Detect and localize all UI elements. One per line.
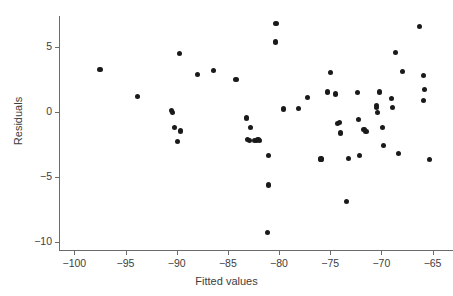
data-point <box>328 70 333 75</box>
x-tick-mark <box>74 251 75 255</box>
x-tick-mark <box>381 251 382 255</box>
x-tick-mark <box>126 251 127 255</box>
y-axis-title: Residuals <box>12 71 24 171</box>
x-tick-mark <box>330 251 331 255</box>
data-point <box>333 91 338 96</box>
x-axis-line <box>59 250 453 251</box>
data-point <box>178 128 183 133</box>
data-point <box>377 89 382 94</box>
data-point <box>273 21 278 26</box>
y-tick-label: 5 <box>10 40 52 52</box>
data-point <box>233 77 238 82</box>
x-tick-label: −100 <box>54 257 94 269</box>
x-tick-label: −70 <box>361 257 401 269</box>
data-point <box>318 156 323 161</box>
data-point <box>417 24 422 29</box>
data-point <box>296 106 301 111</box>
data-point <box>338 130 343 135</box>
data-point <box>281 106 286 111</box>
data-point <box>421 73 426 78</box>
data-point <box>195 72 200 77</box>
data-point <box>244 115 249 120</box>
x-tick-mark <box>433 251 434 255</box>
x-tick-mark <box>228 251 229 255</box>
data-point <box>381 143 386 148</box>
data-point <box>266 182 271 187</box>
data-point <box>257 138 262 143</box>
x-tick-label: −65 <box>413 257 453 269</box>
x-tick-mark <box>177 251 178 255</box>
data-point <box>325 89 330 94</box>
data-point <box>421 98 426 103</box>
data-point <box>97 67 102 72</box>
data-point <box>375 110 380 115</box>
x-tick-mark <box>279 251 280 255</box>
residuals-vs-fitted-scatter-plot: −100−95−90−85−80−75−70−65 50−5−10 Fitted… <box>0 0 453 296</box>
data-point <box>273 39 278 44</box>
y-tick-label: −5 <box>10 170 52 182</box>
x-tick-label: −85 <box>208 257 248 269</box>
data-point <box>344 199 349 204</box>
data-point <box>422 87 427 92</box>
x-tick-label: −75 <box>310 257 350 269</box>
x-tick-label: −80 <box>259 257 299 269</box>
x-tick-label: −95 <box>106 257 146 269</box>
y-tick-label: −10 <box>10 235 52 247</box>
data-point <box>363 129 368 134</box>
x-axis-title: Fitted values <box>0 275 453 287</box>
x-tick-label: −90 <box>157 257 197 269</box>
